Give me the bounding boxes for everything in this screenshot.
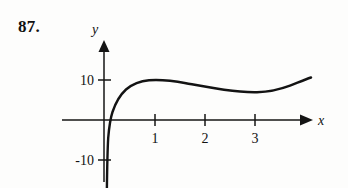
x-axis-label: x <box>317 113 325 128</box>
graph-plot: x y 1 2 3 10 -10 <box>0 0 348 188</box>
y-tick-label-minus-10: -10 <box>75 153 94 168</box>
y-tick-label-10: 10 <box>80 73 94 88</box>
y-axis-label: y <box>90 22 99 37</box>
function-curve <box>107 78 311 189</box>
x-axis-arrow-icon <box>300 115 313 126</box>
figure-container: 87. x y 1 2 3 10 -10 <box>0 0 348 188</box>
x-tick-label-2: 2 <box>202 131 209 146</box>
x-tick-label-1: 1 <box>152 131 159 146</box>
y-axis-arrow-icon <box>99 40 110 52</box>
x-tick-label-3: 3 <box>252 131 259 146</box>
